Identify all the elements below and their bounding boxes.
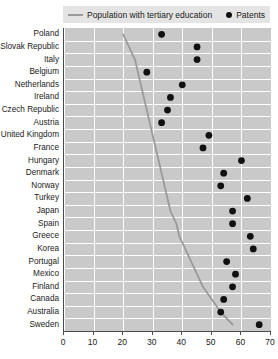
plot-area <box>63 28 271 331</box>
y-axis-label-australia: Australia <box>0 308 59 316</box>
chart-container: Population with tertiary education Paten… <box>0 0 278 359</box>
data-point-spain <box>229 220 236 227</box>
y-axis-label-korea: Korea <box>0 245 59 253</box>
data-point-united-kingdom <box>206 132 213 139</box>
series-line-tertiary-education <box>123 34 232 324</box>
data-point-france <box>200 145 207 152</box>
data-point-greece <box>247 233 254 240</box>
data-point-austria <box>158 119 165 126</box>
legend-entry-tertiary-education: Population with tertiary education <box>68 10 212 20</box>
data-point-sweden <box>256 321 263 328</box>
y-axis-label-finland: Finland <box>0 283 59 291</box>
y-axis-label-united-kingdom: United Kingdom <box>0 131 59 139</box>
legend-entry-patents: Patents <box>226 10 265 20</box>
x-axis-tick-50 <box>211 331 212 335</box>
data-point-norway <box>217 182 224 189</box>
x-axis-tick-label-50: 50 <box>206 337 215 347</box>
data-point-denmark <box>220 170 227 177</box>
data-point-mexico <box>232 271 239 278</box>
line-swatch-icon <box>68 14 83 16</box>
plot-surface <box>64 28 271 331</box>
x-axis-tick-10 <box>93 331 94 335</box>
y-axis-label-slovak-republic: Slovak Republic <box>0 43 59 51</box>
y-axis-label-poland: Poland <box>0 30 59 38</box>
chart-legend: Population with tertiary education Paten… <box>63 6 270 23</box>
y-axis-label-ireland: Ireland <box>0 93 59 101</box>
x-axis-tick-label-0: 0 <box>61 337 66 347</box>
y-axis-label-mexico: Mexico <box>0 270 59 278</box>
x-axis-tick-30 <box>152 331 153 335</box>
x-axis-tick-label-30: 30 <box>147 337 156 347</box>
data-point-belgium <box>143 69 150 76</box>
data-point-australia <box>217 309 224 316</box>
data-point-portugal <box>223 258 230 265</box>
x-axis-tick-label-40: 40 <box>177 337 186 347</box>
data-point-ireland <box>167 94 174 101</box>
y-axis-label-denmark: Denmark <box>0 169 59 177</box>
x-axis-tick-40 <box>181 331 182 335</box>
data-point-hungary <box>238 157 245 164</box>
x-axis-tick-label-20: 20 <box>117 337 126 347</box>
data-point-canada <box>220 296 227 303</box>
y-axis-label-belgium: Belgium <box>0 68 59 76</box>
y-axis-label-norway: Norway <box>0 182 59 190</box>
y-axis-label-netherlands: Netherlands <box>0 81 59 89</box>
x-axis-tick-label-10: 10 <box>88 337 97 347</box>
data-point-italy <box>194 56 201 63</box>
y-axis-label-hungary: Hungary <box>0 157 59 165</box>
y-axis-label-sweden: Sweden <box>0 321 59 329</box>
series-points-patents <box>143 31 262 328</box>
y-axis-label-portugal: Portugal <box>0 258 59 266</box>
y-axis-label-turkey: Turkey <box>0 194 59 202</box>
y-axis-labels: PolandSlovak RepublicItalyBelgiumNetherl… <box>0 28 59 331</box>
data-point-finland <box>229 283 236 290</box>
data-point-korea <box>250 246 257 253</box>
x-axis-tick-label-70: 70 <box>265 337 274 347</box>
data-point-slovak-republic <box>194 44 201 51</box>
x-axis-tick-60 <box>240 331 241 335</box>
y-axis-label-france: France <box>0 144 59 152</box>
data-point-japan <box>229 208 236 215</box>
legend-label-tertiary-education: Population with tertiary education <box>87 10 212 20</box>
y-axis-label-canada: Canada <box>0 295 59 303</box>
x-axis-tick-0 <box>63 331 64 335</box>
y-axis-label-greece: Greece <box>0 232 59 240</box>
y-axis-label-italy: Italy <box>0 56 59 64</box>
x-axis-tick-label-60: 60 <box>236 337 245 347</box>
y-axis-label-czech-republic: Czech Republic <box>0 106 59 114</box>
data-point-poland <box>158 31 165 38</box>
x-axis-tick-70 <box>270 331 271 335</box>
data-point-turkey <box>244 195 251 202</box>
dot-swatch-icon <box>226 12 232 18</box>
data-point-netherlands <box>179 81 186 88</box>
y-axis-label-japan: Japan <box>0 207 59 215</box>
legend-label-patents: Patents <box>236 10 265 20</box>
y-axis-label-austria: Austria <box>0 119 59 127</box>
x-axis-tick-20 <box>122 331 123 335</box>
data-point-czech-republic <box>164 107 171 114</box>
y-axis-label-spain: Spain <box>0 220 59 228</box>
series-layer <box>64 28 271 331</box>
